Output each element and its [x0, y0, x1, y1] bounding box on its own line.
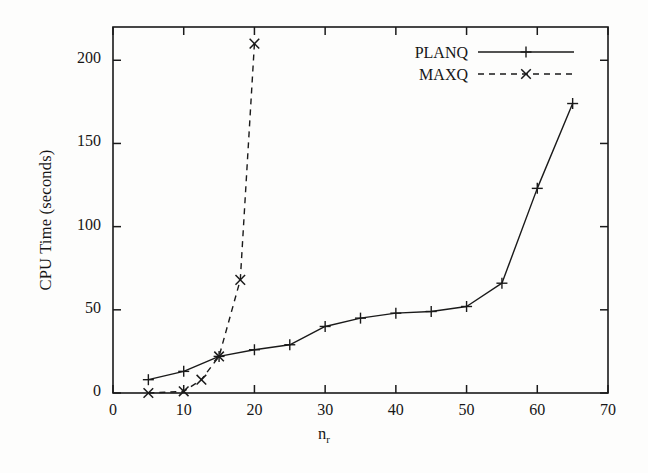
legend-entry-maxq-label: MAXQ [318, 66, 468, 84]
x-tick-label: 60 [507, 401, 567, 419]
legend-entry-planq-label: PLANQ [318, 44, 468, 62]
x-tick-label: 10 [154, 401, 214, 419]
data-series [143, 39, 578, 398]
y-tick-label: 100 [17, 216, 101, 234]
x-tick-label: 0 [83, 401, 143, 419]
y-tick-label: 200 [17, 49, 101, 67]
x-tick-label: 30 [295, 401, 355, 419]
x-axis-label-base: n [318, 424, 326, 443]
x-tick-label: 50 [437, 401, 497, 419]
x-axis-label: nr [318, 424, 330, 445]
y-tick-label: 150 [17, 132, 101, 150]
x-tick-label: 20 [224, 401, 284, 419]
legend-symbols [478, 47, 574, 79]
cpu-time-chart-figure: 050100150200 010203040506070 CPU Time (s… [0, 0, 648, 473]
y-axis-label: CPU Time (seconds) [36, 110, 56, 330]
x-tick-label: 70 [578, 401, 638, 419]
y-tick-label: 50 [17, 299, 101, 317]
y-tick-label: 0 [17, 382, 101, 400]
x-tick-label: 40 [366, 401, 426, 419]
x-axis-label-subscript: r [326, 433, 330, 445]
